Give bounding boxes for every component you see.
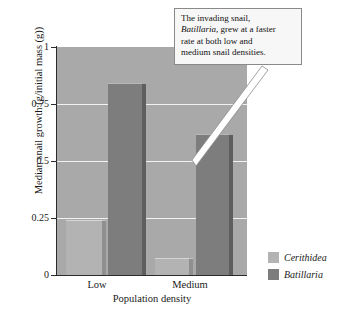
plot-area	[57, 47, 247, 275]
bar-face	[108, 83, 142, 275]
callout-line-4: medium snail densities.	[181, 47, 266, 57]
y-tick-mark-0	[51, 275, 57, 276]
bar-cerithidea-low[interactable]	[66, 220, 106, 275]
legend-label-cerithidea: Cerithidea	[284, 252, 327, 263]
bar-face	[155, 258, 189, 275]
bar-top-highlight	[155, 258, 193, 259]
gridline-0.75	[57, 104, 247, 105]
bar-face	[196, 134, 229, 275]
bar-batillaria-medium[interactable]	[196, 134, 233, 275]
callout-line-3: rate at both low and	[181, 36, 252, 46]
callout-species-name: Batillaria	[181, 24, 216, 34]
bar-batillaria-low[interactable]	[108, 83, 146, 275]
legend-swatch-icon-batillaria	[268, 269, 279, 280]
callout-line-1: The invading snail,	[181, 13, 250, 23]
bar-side	[142, 83, 146, 275]
x-tick-label-low: Low	[67, 279, 127, 290]
y-tick-label-4: 1	[0, 42, 49, 52]
x-tick-label-medium: Medium	[155, 279, 225, 290]
legend-item-batillaria[interactable]: Batillaria	[268, 267, 327, 282]
callout-annotation: The invading snail, Batillaria, grew at …	[174, 8, 302, 65]
bar-side	[102, 220, 106, 275]
bar-top-highlight	[108, 83, 146, 84]
legend-label-batillaria: Batillaria	[284, 269, 323, 280]
legend-item-cerithidea[interactable]: Cerithidea	[268, 250, 327, 265]
y-tick-label-0: 0	[0, 270, 49, 280]
y-axis-title: Median snail growth (g/initial mass (g))	[33, 11, 44, 211]
bar-top-highlight	[196, 134, 233, 135]
x-axis-title: Population density	[57, 293, 247, 304]
bar-side	[229, 134, 233, 275]
legend: Cerithidea Batillaria	[268, 250, 327, 284]
y-tick-label-2: 0.5	[0, 156, 49, 166]
x-axis-line	[56, 275, 247, 276]
bar-face	[66, 220, 102, 275]
bar-cerithidea-medium[interactable]	[155, 258, 193, 275]
y-tick-label-3: 0.75	[0, 99, 49, 109]
y-tick-label-1: 0.25	[0, 213, 49, 223]
bar-side	[189, 258, 193, 275]
callout-line-2: , grew at a faster	[216, 24, 276, 34]
bar-top-highlight	[66, 220, 106, 221]
legend-swatch-icon-cerithidea	[268, 252, 279, 263]
